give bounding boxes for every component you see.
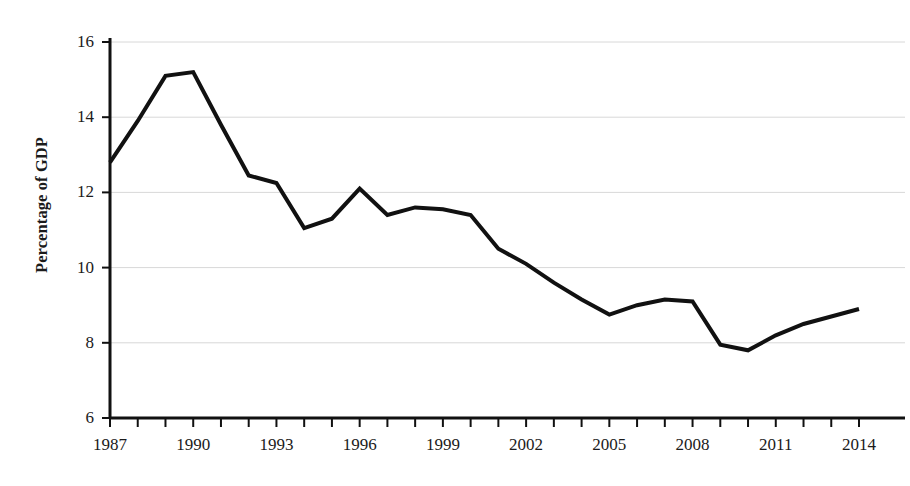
y-tick-label: 10 (54, 259, 94, 276)
y-tick-label: 16 (54, 33, 94, 50)
y-tick-label: 14 (54, 108, 94, 125)
y-tick-label: 8 (54, 334, 94, 351)
x-tick-label: 1993 (241, 436, 311, 453)
y-tick-label: 12 (54, 183, 94, 200)
plot-area (0, 0, 910, 486)
x-tick-label: 1999 (408, 436, 478, 453)
y-tick-label: 6 (54, 409, 94, 426)
data-series-line (110, 72, 859, 350)
x-tick-label: 2002 (491, 436, 561, 453)
x-tick-label: 2011 (741, 436, 811, 453)
x-tick-label: 2008 (658, 436, 728, 453)
gridlines (110, 42, 905, 343)
x-tick-label: 1987 (75, 436, 145, 453)
x-tick-label: 1996 (325, 436, 395, 453)
x-tick-label: 2005 (574, 436, 644, 453)
x-tick-label: 2014 (824, 436, 894, 453)
line-chart: Percentage of GDP 6810121416 19871990199… (0, 0, 910, 486)
x-tick-label: 1990 (158, 436, 228, 453)
